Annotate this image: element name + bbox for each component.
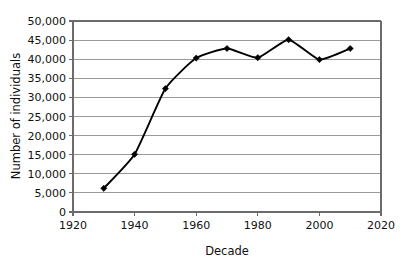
x-tick-label-1980: 1980: [244, 219, 272, 232]
x-tick-label-1960: 1960: [182, 219, 210, 232]
x-tick-label-2000: 2000: [305, 219, 333, 232]
x-axis-title: Decade: [205, 244, 249, 258]
chart-container: 05,00010,00015,00020,00025,00030,00035,0…: [0, 0, 410, 263]
y-tick-label-45000: 45,000: [28, 34, 67, 47]
y-tick-label-35000: 35,000: [28, 72, 67, 85]
y-tick-label-0: 0: [59, 206, 66, 219]
y-tick-label-30000: 30,000: [28, 91, 67, 104]
y-tick-label-50000: 50,000: [28, 15, 67, 28]
y-tick-label-20000: 20,000: [28, 130, 67, 143]
line-chart: 05,00010,00015,00020,00025,00030,00035,0…: [0, 0, 410, 263]
y-tick-label-15000: 15,000: [28, 149, 67, 162]
x-tick-label-1920: 1920: [59, 219, 87, 232]
y-axis-title: Number of individuals: [9, 53, 23, 179]
x-tick-label-1940: 1940: [121, 219, 149, 232]
y-tick-label-5000: 5,000: [35, 187, 67, 200]
y-tick-label-25000: 25,000: [28, 111, 67, 124]
y-tick-label-40000: 40,000: [28, 53, 67, 66]
x-tick-label-2020: 2020: [367, 219, 395, 232]
y-tick-label-10000: 10,000: [28, 168, 67, 181]
